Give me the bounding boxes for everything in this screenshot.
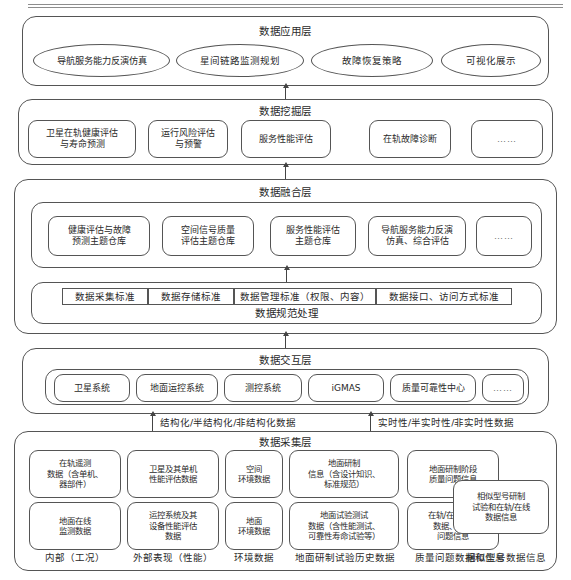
interaction-node-satellite-system[interactable]: 卫星系统 <box>54 374 130 402</box>
standards-band-title: 数据规范处理 <box>32 307 541 319</box>
layer-data-collection: 数据采集层 在轨遥测 数据（含单机、 器部件） 卫星及其单机 性能评估数据 空间… <box>14 431 557 571</box>
layer-data-application: 数据应用层 导航服务能力反演仿真 星间链路监测规划 故障恢复策略 可视化展示 <box>22 16 549 86</box>
interaction-node-igmas[interactable]: iGMAS <box>308 374 384 402</box>
layer-data-fusion: 数据融合层 健康评估与故障 预测主题仓库 空间信号质量 评估主题仓库 服务性能评… <box>14 179 557 334</box>
mining-node-risk-assessment[interactable]: 运行风险评估 与预警 <box>148 120 228 158</box>
decorative-double-rule <box>28 4 563 8</box>
layer-title-application: 数据应用层 <box>23 25 548 37</box>
app-node-navigation-sim[interactable]: 导航服务能力反演仿真 <box>33 44 170 77</box>
mining-node-ellipsis[interactable]: …… <box>471 120 543 158</box>
standard-cell-interface[interactable]: 数据接口、访问方式标准 <box>376 288 512 305</box>
app-node-fault-recovery[interactable]: 故障恢复策略 <box>311 44 433 77</box>
arrow-standards-to-warehouses <box>286 269 287 282</box>
collection-node-ground-development-info[interactable]: 地面研制 信息（含设计知识、 标准规范） <box>289 450 399 498</box>
fusion-standards-band: 数据采集标准 数据存储标准 数据管理标准（权限、内容） 数据接口、访问方式标准 … <box>31 282 542 324</box>
layer-title-collection: 数据采集层 <box>15 436 556 448</box>
mining-node-service-performance[interactable]: 服务性能评估 <box>241 120 331 158</box>
layer-title-fusion: 数据融合层 <box>15 186 556 198</box>
standard-cell-collection[interactable]: 数据采集标准 <box>62 288 148 305</box>
collection-node-ground-environment[interactable]: 地面 环境数据 <box>225 502 283 550</box>
interaction-node-ellipsis[interactable]: …… <box>482 374 524 402</box>
arrow-collection-to-interaction-structured <box>152 415 153 431</box>
mining-node-fault-diagnosis[interactable]: 在轨故障诊断 <box>369 120 451 158</box>
collection-column-label-environment: 环境数据 <box>221 552 287 563</box>
collection-node-satellite-performance[interactable]: 卫星及其单机 性能评估数据 <box>127 450 219 498</box>
edge-label-structured-data: 结构化/半结构化/非结构化数据 <box>160 417 296 428</box>
arrow-fusion-to-mining <box>285 166 286 180</box>
layer-title-mining: 数据挖掘层 <box>19 105 552 117</box>
fusion-node-service-performance-warehouse[interactable]: 服务性能评估 主题仓库 <box>270 216 356 256</box>
interaction-node-band: 卫星系统 地面运控系统 测控系统 iGMAS 质量可靠性中心 …… <box>45 369 529 405</box>
layer-title-interaction: 数据交互层 <box>23 354 548 366</box>
collection-column-label-ground-history: 地面研制试验历史数据 <box>285 552 405 563</box>
app-node-intersatellite-link[interactable]: 星间链路监测规划 <box>176 44 304 77</box>
fusion-node-navigation-simulation[interactable]: 导航服务能力反演 仿真、综合评估 <box>368 216 466 256</box>
arrow-collection-to-interaction-realtime <box>370 415 371 431</box>
collection-node-similar-model-data[interactable]: 相似型号研制 试验和在轨/在线 数据信息 <box>453 480 549 534</box>
mining-node-satellite-health[interactable]: 卫星在轨健康评估 与寿命预测 <box>28 120 136 158</box>
layer-data-interaction: 数据交互层 卫星系统 地面运控系统 测控系统 iGMAS 质量可靠性中心 …… <box>22 348 549 414</box>
collection-column-label-internal: 内部（工况） <box>29 552 121 563</box>
standard-cell-storage[interactable]: 数据存储标准 <box>148 288 234 305</box>
collection-column-label-similar-model: 相似型号数据信息 <box>457 552 555 563</box>
edge-label-realtime-data: 实时性/半实时性/非实时性数据 <box>378 417 514 428</box>
fusion-node-ellipsis[interactable]: …… <box>476 216 532 256</box>
fusion-node-health-warehouse[interactable]: 健康评估与故障 预测主题仓库 <box>48 216 150 256</box>
collection-node-space-environment[interactable]: 空间 环境数据 <box>225 450 283 498</box>
collection-node-ground-test-data[interactable]: 地面试验测试 数据（含性能测试、 可靠性寿命试验等） <box>289 502 399 550</box>
fusion-theme-warehouse-band: 健康评估与故障 预测主题仓库 空间信号质量 评估主题仓库 服务性能评估 主题仓库… <box>31 202 542 268</box>
collection-node-operations-equipment-performance[interactable]: 运控系统及其 设备性能评估 数据 <box>127 502 219 550</box>
layer-data-mining: 数据挖掘层 卫星在轨健康评估 与寿命预测 运行风险评估 与预警 服务性能评估 在… <box>18 99 553 165</box>
interaction-node-ground-operations[interactable]: 地面运控系统 <box>136 374 218 402</box>
interaction-node-tracking-control[interactable]: 测控系统 <box>224 374 302 402</box>
standard-cell-management[interactable]: 数据管理标准（权限、内容） <box>234 288 376 305</box>
architecture-diagram: 数据应用层 导航服务能力反演仿真 星间链路监测规划 故障恢复策略 可视化展示 数… <box>0 0 571 580</box>
collection-column-label-external: 外部表现（性能） <box>123 552 223 563</box>
collection-node-ground-online-monitoring[interactable]: 地面在线 监测数据 <box>29 502 121 550</box>
interaction-node-quality-center[interactable]: 质量可靠性中心 <box>390 374 476 402</box>
fusion-node-signal-quality-warehouse[interactable]: 空间信号质量 评估主题仓库 <box>162 216 254 256</box>
arrow-interaction-to-fusion <box>285 335 286 349</box>
collection-node-onorbit-telemetry[interactable]: 在轨遥测 数据（含单机、 器部件） <box>29 450 121 498</box>
app-node-visualization[interactable]: 可视化展示 <box>441 44 541 77</box>
